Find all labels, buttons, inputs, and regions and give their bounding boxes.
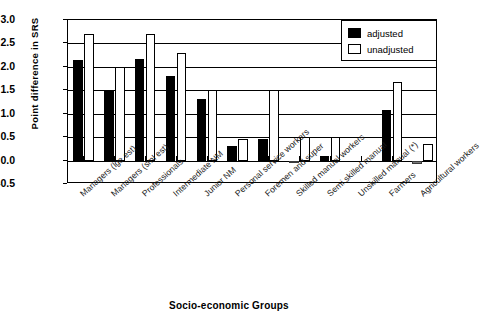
- x-category-label: Farmers: [387, 170, 417, 199]
- x-axis-title: Socio-economic Groups: [0, 300, 458, 311]
- x-category-label: Agricultural workers: [418, 141, 480, 199]
